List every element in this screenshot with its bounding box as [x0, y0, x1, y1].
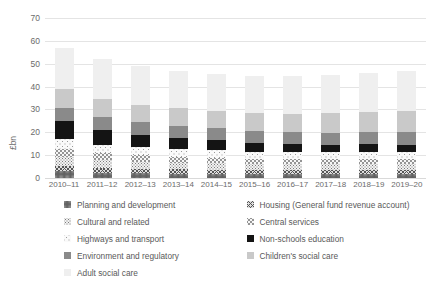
bar-column[interactable]: [312, 18, 350, 178]
bar-segment[interactable]: [283, 144, 302, 152]
bar-segment[interactable]: [55, 171, 74, 178]
bar-stack: [245, 76, 264, 178]
bar-segment[interactable]: [131, 162, 150, 169]
legend-swatch-icon: [247, 218, 254, 225]
bar-segment[interactable]: [359, 132, 378, 144]
y-tick-label-50: 50: [31, 59, 40, 69]
bar-stack: [321, 75, 340, 178]
bar-segment[interactable]: [55, 48, 74, 90]
bar-segment[interactable]: [207, 140, 226, 150]
bar-segment[interactable]: [93, 145, 112, 153]
bar-segment[interactable]: [93, 117, 112, 130]
bar-segment[interactable]: [359, 112, 378, 132]
bar-segment[interactable]: [321, 133, 340, 145]
legend-label: Housing (General fund revenue account): [260, 200, 410, 210]
bar-segment[interactable]: [169, 149, 188, 157]
bar-column[interactable]: [274, 18, 312, 178]
bar-segment[interactable]: [93, 99, 112, 117]
x-tick-label: 2015–16: [235, 180, 273, 189]
bar-segment[interactable]: [359, 144, 378, 151]
bar-segment[interactable]: [131, 147, 150, 155]
legend-item[interactable]: Children's social care: [247, 247, 430, 264]
bar-segment[interactable]: [359, 73, 378, 112]
bar-segment[interactable]: [93, 160, 112, 168]
bar-column[interactable]: [45, 18, 83, 178]
bar-column[interactable]: [83, 18, 121, 178]
bar-segment[interactable]: [321, 75, 340, 113]
bar-segment[interactable]: [397, 111, 416, 132]
bar-segment[interactable]: [55, 121, 74, 139]
bar-segment[interactable]: [55, 108, 74, 121]
x-tick-label: 2016–17: [274, 180, 312, 189]
legend-item[interactable]: Central services: [247, 213, 430, 230]
bar-series-group: [45, 18, 426, 178]
bar-segment[interactable]: [93, 130, 112, 145]
legend-item[interactable]: Cultural and related: [64, 213, 247, 230]
bar-column[interactable]: [159, 18, 197, 178]
bar-segment[interactable]: [169, 163, 188, 170]
x-tick-label: 2012–13: [121, 180, 159, 189]
bar-segment[interactable]: [283, 132, 302, 144]
legend-item[interactable]: Highways and transport: [64, 230, 247, 247]
bar-segment[interactable]: [131, 105, 150, 122]
bar-segment[interactable]: [359, 152, 378, 159]
bar-segment[interactable]: [245, 76, 264, 113]
bar-segment[interactable]: [397, 152, 416, 159]
bar-segment[interactable]: [321, 145, 340, 153]
bar-segment[interactable]: [207, 128, 226, 140]
legend-label: Children's social care: [260, 251, 339, 261]
bar-column[interactable]: [388, 18, 426, 178]
bar-column[interactable]: [235, 18, 273, 178]
bar-stack: [131, 66, 150, 178]
legend-swatch-icon: [64, 235, 71, 242]
bar-segment[interactable]: [131, 135, 150, 148]
legend-label: Planning and development: [77, 200, 175, 210]
bar-segment[interactable]: [207, 74, 226, 111]
bar-segment[interactable]: [93, 153, 112, 160]
bar-segment[interactable]: [245, 152, 264, 159]
bar-segment[interactable]: [283, 76, 302, 113]
bar-segment[interactable]: [131, 66, 150, 105]
legend-item[interactable]: Environment and regulatory: [64, 247, 247, 264]
x-tick-label: 2010–11: [45, 180, 83, 189]
bar-segment[interactable]: [55, 157, 74, 166]
bar-segment[interactable]: [245, 113, 264, 131]
bar-segment[interactable]: [55, 89, 74, 107]
legend-label: Central services: [260, 217, 319, 227]
bar-segment[interactable]: [169, 71, 188, 109]
bar-segment[interactable]: [131, 122, 150, 134]
y-tick-label-70: 70: [31, 13, 40, 23]
bar-segment[interactable]: [169, 108, 188, 125]
bar-column[interactable]: [197, 18, 235, 178]
bar-segment[interactable]: [283, 114, 302, 133]
bar-segment[interactable]: [397, 132, 416, 145]
legend-swatch-icon: [64, 218, 71, 225]
bar-segment[interactable]: [397, 145, 416, 152]
bar-segment[interactable]: [93, 59, 112, 99]
legend-swatch-icon: [64, 269, 71, 276]
bar-segment[interactable]: [207, 150, 226, 158]
bar-segment[interactable]: [207, 111, 226, 128]
bar-segment[interactable]: [397, 71, 416, 111]
bar-segment[interactable]: [55, 139, 74, 149]
bar-segment[interactable]: [245, 131, 264, 143]
legend-swatch-icon: [247, 201, 254, 208]
bar-segment[interactable]: [169, 126, 188, 138]
legend-item[interactable]: Planning and development: [64, 196, 247, 213]
bar-segment[interactable]: [169, 138, 188, 149]
bar-column[interactable]: [350, 18, 388, 178]
bar-column[interactable]: [121, 18, 159, 178]
x-tick-label: 2018–19: [350, 180, 388, 189]
bar-segment[interactable]: [283, 152, 302, 159]
legend-item[interactable]: Adult social care: [64, 264, 247, 281]
bar-segment[interactable]: [245, 143, 264, 152]
legend-swatch-icon: [247, 252, 254, 259]
y-tick-label-20: 20: [31, 127, 40, 137]
bar-segment[interactable]: [55, 149, 74, 157]
y-tick-label-0: 0: [35, 173, 40, 183]
bar-segment[interactable]: [321, 113, 340, 132]
legend-label: Non-schools education: [260, 234, 344, 244]
legend-item[interactable]: Housing (General fund revenue account): [247, 196, 430, 213]
legend-item[interactable]: Non-schools education: [247, 230, 430, 247]
bar-segment[interactable]: [321, 152, 340, 159]
